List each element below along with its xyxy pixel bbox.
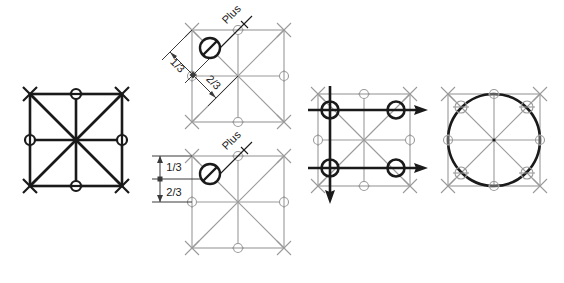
fig3-dim-upper-label: 1/3	[166, 161, 181, 173]
fig5-center-point	[492, 138, 495, 141]
fig3-svg: 1/3 2/3 Plus	[148, 148, 294, 278]
figure-plus-diagonal-dimension: 1/3 2/3 Plus	[148, 4, 294, 144]
fig2-plus-label: Plus	[219, 2, 243, 26]
fig2-plus-symbol-circle-with-slash	[200, 38, 220, 58]
fig4-vertical-arrowhead	[325, 190, 335, 204]
figure-arrow-vector-grid	[304, 80, 434, 208]
figure-bold-square-grid	[16, 80, 136, 205]
fig2-svg: 1/3 2/3 Plus	[148, 4, 294, 144]
fig4-horizontal-arrowheads	[414, 105, 428, 173]
figure-inscribed-circle-grid	[434, 80, 556, 206]
fig1-svg	[16, 80, 136, 205]
fig4-svg	[304, 80, 434, 208]
fig3-dim-lower-label: 2/3	[166, 186, 181, 198]
fig4-grid	[318, 94, 410, 186]
figure-plus-vertical-dimension: 1/3 2/3 Plus	[148, 148, 294, 278]
fig5-svg	[434, 80, 556, 206]
diagram-canvas: 1/3 2/3 Plus	[0, 0, 564, 283]
fig2-dim-upper-label: 1/3	[168, 56, 187, 75]
fig3-plus-symbol-circle-with-slash	[200, 164, 220, 184]
fig3-dimension-ticks	[157, 156, 163, 202]
